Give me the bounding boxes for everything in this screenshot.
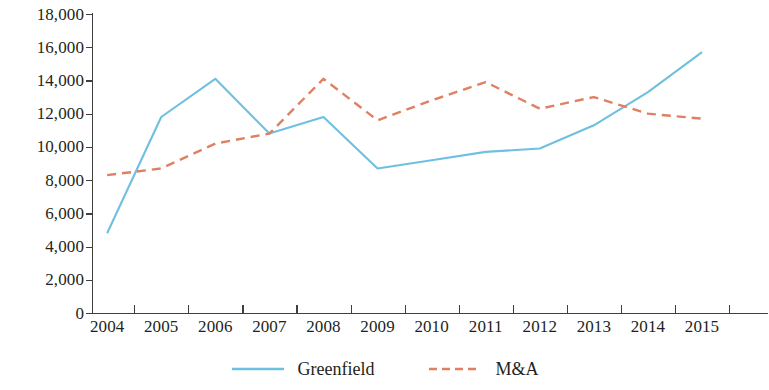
y-axis-tick-label: 2,000: [4, 271, 84, 288]
y-axis-tick-label: 12,000: [4, 105, 84, 122]
legend-swatch-solid-line-icon: [231, 362, 285, 376]
series-lines: [92, 14, 768, 313]
series-line-greenfield: [107, 52, 702, 233]
x-axis-tick-label: 2015: [670, 318, 734, 336]
y-axis-tick-label: 0: [4, 305, 84, 322]
y-axis-tick-label: 14,000: [4, 72, 84, 89]
y-axis-tick-label: 8,000: [4, 172, 84, 189]
legend-swatch-dashed-line-icon: [428, 362, 482, 376]
legend-item-greenfield[interactable]: Greenfield: [231, 360, 375, 378]
y-axis-tick-label: 16,000: [4, 39, 84, 56]
y-axis-tick-label: 18,000: [4, 6, 84, 23]
y-axis-labels: 02,0004,0006,0008,00010,00012,00014,0001…: [0, 0, 84, 390]
plot-area: [92, 14, 768, 313]
y-axis-tick-label: 6,000: [4, 205, 84, 222]
legend-label: M&A: [495, 360, 538, 378]
chart-legend: GreenfieldM&A: [0, 360, 769, 378]
legend-label: Greenfield: [298, 360, 375, 378]
y-axis-tick-label: 10,000: [4, 138, 84, 155]
legend-item-m-a[interactable]: M&A: [428, 360, 538, 378]
y-axis-tick-label: 4,000: [4, 238, 84, 255]
line-chart: 02,0004,0006,0008,00010,00012,00014,0001…: [0, 0, 769, 390]
